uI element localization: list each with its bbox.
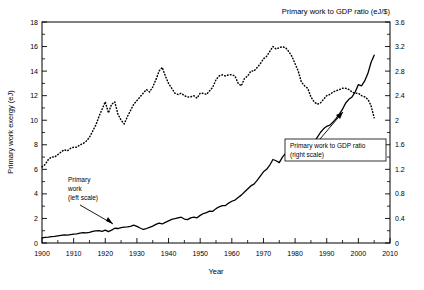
right-tick-label: 0.8 [395,190,405,197]
right-tick-label: 0 [395,240,399,247]
x-tick-label: 2010 [382,250,398,257]
annotation-ratio-line2: (right scale) [290,151,324,159]
left-tick-label: 2 [34,215,38,222]
annotation-primary-work-line3: (left scale) [68,194,98,202]
annotation-primary-work: Primary work (left scale) [67,176,113,224]
x-tick-label: 1980 [287,250,303,257]
plot-border [42,22,390,243]
left-tick-label: 0 [34,240,38,247]
left-tick-label: 8 [34,141,38,148]
left-tick-label: 4 [34,190,38,197]
right-tick-label: 3.2 [395,43,405,50]
left-axis-tick-labels: 024681012141618 [30,19,38,247]
x-axis-ticks [42,238,390,243]
left-tick-label: 14 [30,68,38,75]
left-tick-label: 16 [30,43,38,50]
left-tick-label: 6 [34,166,38,173]
annotation-primary-work-line1: Primary [68,176,91,184]
x-tick-label: 1960 [224,250,240,257]
right-tick-label: 0.4 [395,215,405,222]
x-tick-label: 1940 [161,250,177,257]
x-tick-label: 1930 [129,250,145,257]
plot-frame [42,22,390,243]
right-tick-label: 2.8 [395,68,405,75]
x-tick-label: 1910 [66,250,82,257]
left-axis-ticks [42,22,47,243]
right-tick-label: 2.4 [395,92,405,99]
right-axis-tick-labels: 00.40.81.21.622.42.83.23.6 [395,19,405,247]
left-tick-label: 10 [30,117,38,124]
x-tick-label: 1950 [192,250,208,257]
left-tick-label: 12 [30,92,38,99]
left-tick-label: 18 [30,19,38,26]
right-tick-label: 1.2 [395,166,405,173]
right-tick-label: 1.6 [395,141,405,148]
x-tick-label: 1900 [34,250,50,257]
x-axis-title: Year [208,267,224,276]
right-tick-label: 2 [395,117,399,124]
chart-top-title-group: Primary work to GDP ratio (eJ/$) [282,7,391,16]
x-tick-label: 2000 [351,250,367,257]
x-axis-tick-labels: 1900191019201930194019501960197019801990… [34,250,398,257]
chart-figure: Primary work to GDP ratio (eJ/$) 0246810… [0,0,424,290]
annotation-ratio-line1: Primary work to GDP ratio [290,142,366,150]
left-axis-title: Primary work exergy (eJ) [6,90,15,174]
annotation-primary-work-arrowhead [106,217,113,224]
right-tick-label: 3.6 [395,19,405,26]
x-tick-label: 1990 [319,250,335,257]
annotation-primary-work-line2: work [67,185,82,192]
right-axis-title: Primary work to GDP ratio (eJ/$) [282,7,391,16]
x-tick-label: 1920 [97,250,113,257]
chart-canvas: Primary work to GDP ratio (eJ/$) 0246810… [0,0,424,290]
x-tick-label: 1970 [256,250,272,257]
right-axis-ticks [385,22,390,243]
